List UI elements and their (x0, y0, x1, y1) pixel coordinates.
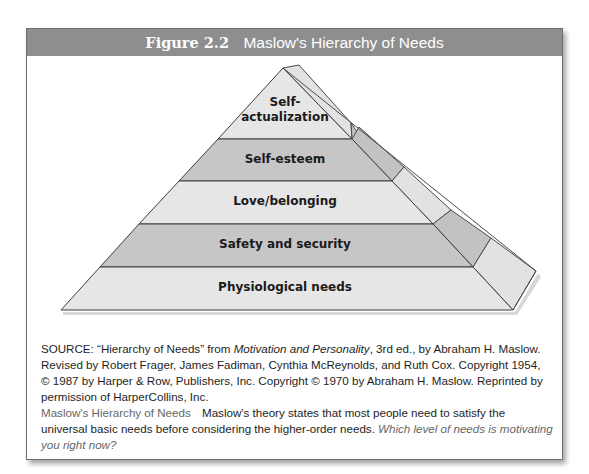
level-physiological: Physiological needs (185, 280, 385, 295)
source-prefix: SOURCE: “Hierarchy of Needs” from (41, 342, 234, 355)
level-label: actualization (185, 110, 385, 125)
figure-frame: Figure 2.2 Maslow's Hierarchy of Needs S… (26, 28, 563, 460)
level-label: Self- (185, 95, 385, 110)
level-self-esteem: Self-esteem (185, 152, 385, 167)
level-love-belonging: Love/belonging (185, 194, 385, 209)
level-safety-security: Safety and security (185, 237, 385, 252)
figure-caption: Maslow's Hierarchy of Needs Maslow's the… (41, 405, 553, 453)
source-citation: SOURCE: “Hierarchy of Needs” from Motiva… (41, 341, 551, 405)
level-self-actualization: Self- actualization (185, 95, 385, 125)
caption-title: Maslow's Hierarchy of Needs (41, 406, 191, 419)
source-book-title: Motivation and Personality (234, 342, 370, 355)
